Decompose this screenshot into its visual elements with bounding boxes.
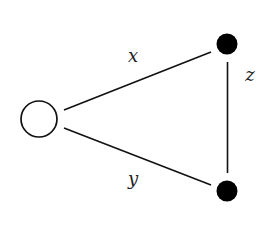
open-node-left bbox=[21, 101, 57, 137]
filled-node-top-right bbox=[217, 34, 238, 55]
edge-label-z: z bbox=[244, 64, 255, 85]
edge-label-x: x bbox=[128, 45, 138, 66]
graph-diagram: x y z bbox=[0, 0, 270, 227]
edge-label-y: y bbox=[127, 168, 139, 189]
filled-node-bottom-right bbox=[217, 181, 238, 202]
